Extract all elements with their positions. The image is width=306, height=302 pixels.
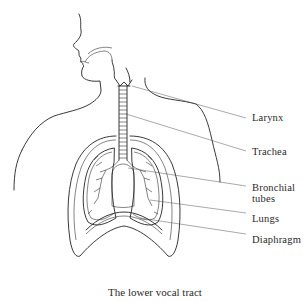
label-trachea: Trachea (252, 146, 287, 157)
leader-trachea (126, 114, 246, 151)
right-shoulder (145, 78, 220, 182)
trachea (119, 86, 127, 160)
label-diaphragm: Diaphragm (252, 234, 301, 245)
pharynx (112, 60, 116, 80)
label-bronchial-line1: Bronchial (252, 182, 295, 193)
label-lungs: Lungs (252, 213, 279, 224)
left-lung (83, 148, 116, 225)
left-body-side (14, 150, 22, 190)
heart-space (112, 164, 134, 208)
bronchial-tubes (88, 156, 158, 214)
leader-lungs (150, 200, 246, 213)
leader-larynx (132, 86, 246, 118)
head-profile (22, 14, 101, 150)
palate (88, 47, 112, 54)
label-bronchial-line2: tubes (252, 193, 295, 204)
figure-caption: The lower vocal tract (0, 286, 230, 298)
leader-bronchial (128, 168, 246, 186)
diaphragm (86, 212, 162, 230)
leader-diaphragm (140, 218, 246, 234)
label-larynx: Larynx (252, 112, 284, 123)
label-bronchial-tubes: Bronchial tubes (252, 182, 295, 204)
back-of-neck (126, 68, 130, 82)
